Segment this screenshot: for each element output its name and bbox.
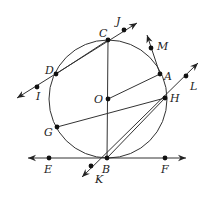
point-F xyxy=(163,156,168,161)
label-A: A xyxy=(163,70,172,83)
point-G xyxy=(55,125,60,130)
point-D xyxy=(54,72,59,77)
point-M xyxy=(149,46,154,51)
label-K: K xyxy=(94,173,104,186)
point-A xyxy=(158,72,163,77)
point-H xyxy=(163,96,168,101)
secant-IJ-arrow-icon xyxy=(17,91,25,98)
label-D: D xyxy=(44,64,54,77)
point-B xyxy=(105,156,110,161)
circle-geometry-diagram: CJMDIALOHGBEFK xyxy=(0,0,211,197)
secant-IJ-arrow-icon xyxy=(129,23,137,30)
label-F: F xyxy=(160,163,169,176)
point-E xyxy=(47,156,52,161)
label-M: M xyxy=(156,40,169,53)
label-I: I xyxy=(35,90,41,103)
point-O xyxy=(106,97,111,102)
label-O: O xyxy=(94,93,103,106)
label-C: C xyxy=(99,27,108,40)
segment-BH xyxy=(107,98,165,158)
point-L xyxy=(184,74,189,79)
label-L: L xyxy=(189,80,197,93)
label-H: H xyxy=(169,92,180,105)
segment-GH xyxy=(57,98,165,127)
label-E: E xyxy=(43,163,52,176)
label-G: G xyxy=(44,126,53,139)
segment-OA xyxy=(108,74,160,99)
point-J xyxy=(122,28,127,33)
label-J: J xyxy=(114,15,121,28)
point-K xyxy=(89,164,94,169)
point-I xyxy=(35,85,40,90)
